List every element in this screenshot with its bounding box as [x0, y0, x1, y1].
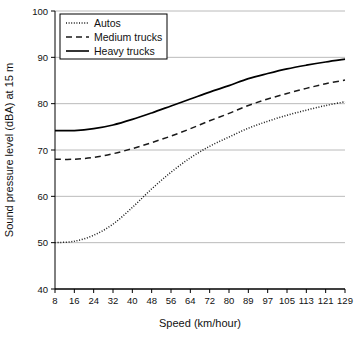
- x-axis-title: Speed (km/hour): [159, 317, 241, 329]
- x-tick-label-72: 72: [204, 295, 215, 306]
- x-tick-label-80: 80: [224, 295, 235, 306]
- y-axis-ticks: 405060708090100: [32, 6, 55, 295]
- legend-label-heavy-trucks: Heavy trucks: [94, 45, 155, 57]
- legend-label-autos: Autos: [94, 17, 121, 29]
- x-tick-label-121: 121: [318, 295, 334, 306]
- legend: Autos Medium trucks Heavy trucks: [60, 14, 167, 59]
- y-tick-label-80: 80: [37, 98, 48, 109]
- x-tick-label-16: 16: [69, 295, 80, 306]
- x-tick-label-40: 40: [127, 295, 138, 306]
- x-tick-label-89: 89: [243, 295, 254, 306]
- x-axis-ticks: 81624324048566472808997105113121129: [52, 289, 353, 306]
- y-axis-title: Sound pressure level (dBA) at 15 m: [3, 63, 15, 237]
- y-tick-label-40: 40: [37, 284, 48, 295]
- y-tick-label-50: 50: [37, 237, 48, 248]
- x-tick-label-97: 97: [262, 295, 273, 306]
- x-tick-label-8: 8: [52, 295, 57, 306]
- y-tick-label-100: 100: [32, 6, 48, 17]
- legend-label-medium-trucks: Medium trucks: [94, 31, 162, 43]
- chart-container: 405060708090100 816243240485664728089971…: [0, 0, 361, 338]
- x-tick-label-113: 113: [299, 295, 314, 306]
- x-tick-label-64: 64: [185, 295, 196, 306]
- x-tick-label-56: 56: [166, 295, 177, 306]
- x-tick-label-24: 24: [88, 295, 99, 306]
- sound-pressure-line-chart: 405060708090100 816243240485664728089971…: [0, 0, 361, 338]
- x-tick-label-129: 129: [337, 295, 353, 306]
- x-tick-label-105: 105: [279, 295, 295, 306]
- y-tick-label-70: 70: [37, 145, 48, 156]
- x-tick-label-32: 32: [108, 295, 119, 306]
- y-tick-label-90: 90: [37, 52, 48, 63]
- x-tick-label-48: 48: [146, 295, 157, 306]
- y-tick-label-60: 60: [37, 191, 48, 202]
